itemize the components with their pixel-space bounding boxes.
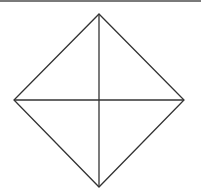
rhombus-diagram: [0, 0, 201, 190]
